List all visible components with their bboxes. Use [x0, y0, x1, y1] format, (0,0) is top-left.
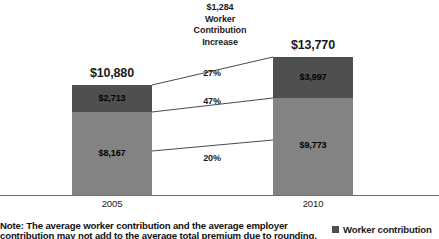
stacked-bar-chart: $1,284 Worker Contribution Increase $10,…: [0, 0, 439, 239]
chart-footnote: Note: The average worker contribution an…: [0, 221, 300, 239]
growth-percent-employer: 20%: [189, 153, 235, 163]
growth-percent-worker: 47%: [189, 96, 235, 106]
bar-2005-worker-value: $2,713: [72, 93, 152, 103]
growth-percent-total: 27%: [189, 68, 235, 78]
connector-employer: [152, 140, 273, 151]
footnote-line-2: contribution may not add to the average …: [0, 231, 300, 239]
x-axis-line: [0, 195, 439, 196]
callout-line-contribution: Contribution: [145, 25, 295, 37]
bar-2005-employer-value: $8,167: [72, 148, 152, 158]
legend-label-worker-contribution: Worker contribution: [343, 224, 432, 235]
bar-2010-worker-value: $3,997: [273, 72, 353, 82]
callout-line-worker: Worker: [145, 14, 295, 26]
x-axis-tick-2005: 2005: [67, 198, 157, 209]
total-label-2010: $13,770: [263, 38, 363, 52]
x-axis-tick-2010: 2010: [268, 198, 358, 209]
callout-amount: $1,284: [145, 2, 295, 14]
bar-2010-employer-value: $9,773: [273, 140, 353, 150]
legend-swatch-worker-contribution: [332, 226, 339, 233]
chart-legend: Worker contribution: [332, 224, 432, 235]
total-label-2005: $10,880: [62, 66, 162, 80]
